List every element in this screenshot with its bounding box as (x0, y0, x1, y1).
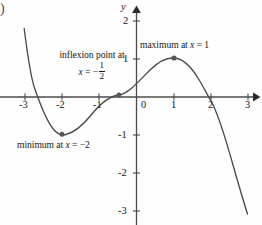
graph-figure: ) y 0 (0, 0, 262, 225)
maximum-annotation: maximum at x = 1 (140, 40, 209, 50)
fraction-denominator: 2 (99, 72, 106, 81)
y-axis-label: y (121, 1, 126, 12)
maximum-annotation-text: maximum at (140, 39, 190, 50)
inflexion-annotation-fraction: 12 (99, 61, 106, 81)
fraction-numerator: 1 (99, 61, 106, 70)
cubic-graph-plot (0, 0, 262, 225)
origin-tick-label: 0 (141, 99, 146, 110)
x-tick-label-neg3: -3 (19, 99, 28, 110)
y-tick-label-2: 2 (123, 15, 128, 26)
minimum-point-marker (60, 132, 65, 137)
y-axis-arrowhead (132, 6, 141, 14)
y-tick-label-neg2: -2 (118, 167, 127, 178)
minimum-annotation-equation: = −2 (70, 139, 90, 150)
minimum-annotation: minimum at x = −2 (17, 140, 90, 150)
maximum-point-marker (171, 55, 176, 60)
x-tick-label-1: 1 (171, 99, 176, 110)
x-tick-label-neg2: -2 (56, 99, 65, 110)
x-axis-arrowhead (253, 93, 261, 102)
inflexion-point-marker (117, 93, 122, 98)
minimum-annotation-text: minimum at (17, 139, 65, 150)
inflexion-annotation-line2: x = −12 (51, 61, 133, 81)
inflexion-annotation-equation: = − (83, 66, 98, 77)
maximum-annotation-equation: = 1 (194, 39, 209, 50)
x-tick-label-neg1: -1 (93, 99, 102, 110)
y-tick-label-neg3: -3 (118, 205, 127, 216)
x-tick-label-2: 2 (208, 99, 213, 110)
x-tick-label-3: 3 (245, 99, 250, 110)
y-tick-label-neg1: -1 (118, 129, 127, 140)
inflexion-annotation-line1: inflexion point at (51, 50, 133, 60)
inflexion-annotation: inflexion point at x = −12 (51, 50, 133, 81)
